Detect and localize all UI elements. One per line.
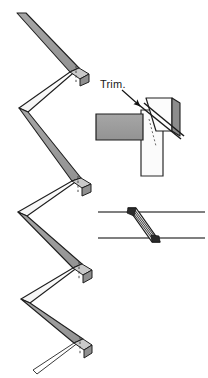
zigzag-segment-7-face [21, 299, 83, 343]
zigzag-segment-6-face [21, 264, 82, 303]
section-scarf-tail [151, 235, 160, 242]
trim-horizontal-member [96, 114, 143, 140]
zigzag-segment-5-face [18, 212, 82, 268]
zigzag-segment-7 [21, 299, 83, 343]
technical-diagram: Trim. [0, 0, 208, 378]
section-scarf-corner [127, 208, 136, 216]
zigzag-segment-3-face [19, 108, 81, 181]
trim-detail-group: Trim. [96, 78, 184, 176]
zigzag-segment-5 [18, 212, 82, 268]
trim-callout-leader [122, 90, 140, 106]
zigzag-segment-2 [19, 68, 79, 112]
trim-label: Trim. [100, 78, 126, 90]
zigzag-segment-3 [19, 108, 81, 181]
zigzag-segment-1 [17, 13, 79, 72]
zigzag-segment-1-face [17, 13, 79, 72]
zigzag-segment-4 [18, 178, 81, 216]
zigzag-segment-2-face [19, 68, 79, 112]
section-detail-group [98, 208, 205, 242]
zigzag-segment-6 [21, 264, 82, 303]
zigzag-strip-group [17, 13, 92, 374]
diagram-canvas: Trim. [0, 0, 208, 378]
zigzag-segment-4-face [18, 178, 81, 216]
